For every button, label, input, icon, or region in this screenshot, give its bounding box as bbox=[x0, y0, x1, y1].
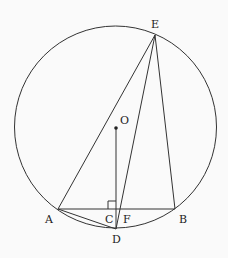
label-c: C bbox=[105, 213, 113, 226]
geometry-diagram: E O A C F B D bbox=[0, 0, 228, 258]
label-d: D bbox=[112, 233, 121, 246]
label-e: E bbox=[151, 18, 159, 31]
segment-ed bbox=[116, 35, 155, 229]
label-o: O bbox=[120, 114, 129, 127]
right-angle-marker bbox=[108, 201, 116, 209]
segment-ae bbox=[58, 35, 155, 209]
label-b: B bbox=[179, 213, 187, 226]
center-point-o bbox=[114, 126, 118, 130]
segment-eb bbox=[155, 35, 175, 209]
label-f: F bbox=[123, 213, 131, 226]
label-a: A bbox=[44, 213, 54, 226]
